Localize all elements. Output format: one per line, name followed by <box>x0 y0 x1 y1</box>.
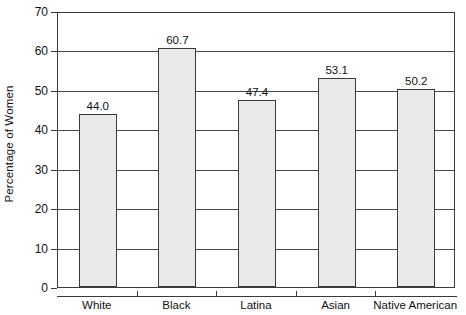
bar-value-label: 47.4 <box>222 86 292 98</box>
y-axis-title-text: Percentage of Women <box>3 85 15 202</box>
y-tick-mark <box>51 249 57 250</box>
x-tick-label: Native American <box>355 299 466 312</box>
plot-area: 44.060.747.453.150.2 <box>57 12 455 288</box>
bar-value-label: 50.2 <box>381 75 451 87</box>
y-tick-label: 0 <box>22 282 48 294</box>
bar[interactable] <box>79 114 117 287</box>
bar[interactable] <box>238 100 276 287</box>
bar[interactable] <box>318 78 356 287</box>
x-tick-mark <box>216 291 217 297</box>
bar[interactable] <box>158 48 196 287</box>
y-tick-mark <box>51 170 57 171</box>
y-axis-tick-labels: 010203040506070 <box>22 0 48 315</box>
y-tick-label: 40 <box>22 124 48 136</box>
y-tick-label: 70 <box>22 6 48 18</box>
y-tick-mark <box>51 209 57 210</box>
bar[interactable] <box>397 89 435 287</box>
y-tick-mark <box>51 288 57 289</box>
x-tick-mark <box>137 291 138 297</box>
y-axis-title: Percentage of Women <box>0 0 18 288</box>
y-tick-mark <box>51 91 57 92</box>
y-tick-mark <box>51 51 57 52</box>
y-tick-label: 30 <box>22 164 48 176</box>
x-tick-mark <box>375 291 376 297</box>
y-tick-label: 50 <box>22 85 48 97</box>
x-tick-mark <box>296 291 297 297</box>
y-tick-label: 60 <box>22 45 48 57</box>
bar-chart: Percentage of Women 010203040506070 44.0… <box>0 0 466 315</box>
y-tick-mark <box>51 130 57 131</box>
y-tick-label: 20 <box>22 203 48 215</box>
y-tick-label: 10 <box>22 243 48 255</box>
y-tick-mark <box>51 12 57 13</box>
bar-value-label: 60.7 <box>142 34 212 46</box>
x-axis-line <box>57 296 457 297</box>
gridline <box>58 51 454 52</box>
bar-value-label: 53.1 <box>302 64 372 76</box>
bar-value-label: 44.0 <box>63 100 133 112</box>
